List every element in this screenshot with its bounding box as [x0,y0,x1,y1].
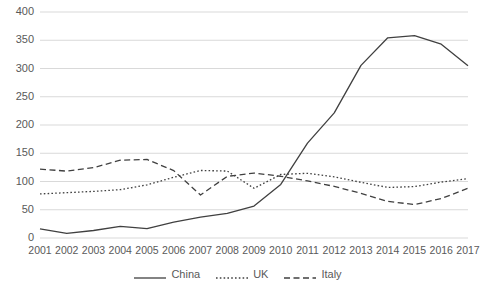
legend-label: China [171,269,200,280]
x-axis-tick-label: 2014 [376,245,399,256]
legend-label: Italy [321,269,341,280]
x-axis-tick-label: 2007 [189,245,212,256]
x-axis-tick-label: 2011 [296,245,319,256]
legend-item-uk[interactable]: UK [216,269,268,280]
x-axis-tick-label: 2015 [403,245,426,256]
dotted-line-swatch [216,269,248,279]
x-axis-tick-label: 2008 [216,245,239,256]
x-axis-tick-label: 2017 [456,245,479,256]
x-axis-tick-label: 2005 [135,245,158,256]
x-axis-tick-label: 2012 [323,245,346,256]
x-axis-tick-label: 2004 [109,245,132,256]
x-axis-tick-label: 2013 [349,245,372,256]
legend: ChinaUKItaly [0,264,476,284]
solid-line-swatch [134,269,166,279]
dashed-line-swatch [284,269,316,279]
x-axis-tick-label: 2010 [269,245,292,256]
x-axis-tick-label: 2002 [55,245,78,256]
x-axis-tick-label: 2016 [430,245,453,256]
x-axis-tick-label: 2006 [162,245,185,256]
legend-label: UK [253,269,268,280]
legend-item-china[interactable]: China [134,269,200,280]
x-axis-tick-label: 2009 [242,245,265,256]
x-axis-tick-label: 2001 [28,245,51,256]
legend-item-italy[interactable]: Italy [284,269,341,280]
x-axis-tick-label: 2003 [82,245,105,256]
